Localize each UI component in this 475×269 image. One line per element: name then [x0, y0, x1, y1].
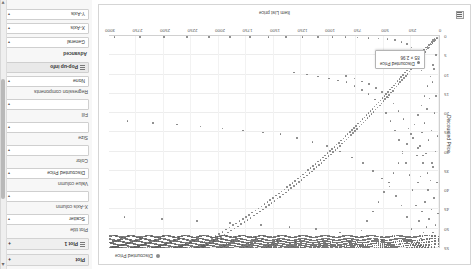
data-point[interactable] [242, 235, 244, 237]
data-point[interactable] [399, 78, 401, 80]
data-point[interactable] [417, 182, 419, 184]
config-panel[interactable]: Plot + Plot 1 + Plot title Scatter ▾ X-A… [0, 0, 92, 269]
data-point[interactable] [387, 97, 389, 99]
size-select[interactable]: ▾ [4, 122, 89, 133]
data-point[interactable] [367, 238, 369, 240]
data-point[interactable] [433, 68, 435, 70]
data-point[interactable] [238, 243, 240, 245]
data-point[interactable] [212, 242, 214, 244]
data-point[interactable] [396, 238, 398, 240]
data-point[interactable] [350, 235, 352, 237]
data-point[interactable] [232, 224, 234, 226]
data-point[interactable] [341, 143, 343, 145]
data-point[interactable] [417, 114, 419, 116]
data-point[interactable] [366, 114, 368, 116]
data-point[interactable] [356, 128, 358, 130]
data-point[interactable] [302, 235, 304, 237]
expand-icon-2[interactable]: + [8, 241, 11, 247]
data-point[interactable] [385, 93, 387, 95]
data-point[interactable] [435, 151, 437, 153]
data-point[interactable] [225, 229, 227, 231]
data-point[interactable] [434, 243, 436, 245]
data-point[interactable] [257, 240, 259, 242]
data-point[interactable] [152, 122, 154, 124]
data-point[interactable] [389, 239, 391, 241]
data-point[interactable] [333, 239, 335, 241]
data-point[interactable] [346, 81, 348, 83]
data-point[interactable] [316, 242, 318, 244]
data-point[interactable] [431, 162, 433, 164]
data-point[interactable] [374, 99, 376, 101]
data-point[interactable] [371, 113, 373, 115]
data-point[interactable] [267, 236, 269, 238]
data-point[interactable] [188, 235, 190, 237]
data-point[interactable] [200, 247, 202, 248]
chevron-down-icon-g[interactable]: ▾ [8, 40, 10, 45]
fill-select[interactable]: ▾ [4, 99, 89, 110]
data-point[interactable] [274, 236, 276, 238]
data-point[interactable] [421, 70, 423, 72]
data-point[interactable] [317, 36, 319, 38]
data-point[interactable] [247, 240, 249, 242]
chevron-down-icon-r[interactable]: ▾ [8, 79, 10, 84]
data-point[interactable] [231, 245, 233, 247]
x-axis-column-select[interactable]: ▾ [4, 191, 89, 202]
data-point[interactable] [351, 129, 353, 131]
data-point[interactable] [366, 235, 368, 237]
data-point[interactable] [291, 237, 293, 239]
data-point[interactable] [318, 164, 320, 166]
data-point[interactable] [247, 219, 249, 221]
data-point[interactable] [275, 195, 277, 197]
data-point[interactable] [238, 235, 240, 237]
data-point[interactable] [317, 247, 319, 248]
data-point[interactable] [403, 240, 405, 242]
data-point[interactable] [426, 226, 428, 228]
data-point[interactable] [144, 236, 146, 238]
data-point[interactable] [221, 247, 223, 248]
data-point[interactable] [192, 243, 194, 245]
data-point[interactable] [364, 117, 366, 119]
data-point[interactable] [387, 236, 389, 238]
data-point[interactable] [237, 226, 239, 228]
data-point[interactable] [244, 221, 246, 223]
data-point[interactable] [319, 239, 321, 241]
data-point[interactable] [398, 238, 400, 240]
data-point[interactable] [258, 245, 260, 247]
data-point[interactable] [438, 243, 440, 245]
data-point[interactable] [370, 246, 372, 248]
data-point[interactable] [181, 246, 183, 248]
value-column-select[interactable]: Discounted Price ▾ [4, 168, 89, 179]
data-point[interactable] [339, 232, 341, 234]
data-point[interactable] [220, 247, 222, 248]
data-point[interactable] [207, 235, 209, 237]
data-point[interactable] [361, 81, 363, 83]
data-point[interactable] [291, 240, 293, 242]
data-point[interactable] [154, 243, 156, 245]
data-point[interactable] [296, 183, 298, 185]
data-point[interactable] [110, 242, 112, 244]
data-point[interactable] [278, 235, 280, 237]
data-point[interactable] [413, 236, 415, 238]
data-point[interactable] [155, 243, 157, 245]
data-point[interactable] [152, 247, 154, 248]
data-point[interactable] [388, 182, 390, 184]
data-point[interactable] [399, 235, 401, 237]
data-point[interactable] [359, 240, 361, 242]
data-point[interactable] [350, 246, 352, 248]
data-point[interactable] [224, 246, 226, 248]
data-point[interactable] [333, 236, 335, 238]
data-point[interactable] [305, 172, 307, 174]
data-point[interactable] [301, 247, 303, 248]
scrollbar-thumb[interactable] [1, 79, 5, 199]
data-point[interactable] [147, 245, 149, 247]
data-point[interactable] [424, 122, 426, 124]
data-point[interactable] [282, 241, 284, 243]
data-point[interactable] [325, 158, 327, 160]
data-point[interactable] [402, 153, 404, 155]
data-point[interactable] [317, 161, 319, 163]
data-point[interactable] [292, 182, 294, 184]
data-point[interactable] [229, 247, 231, 248]
data-point[interactable] [295, 236, 297, 238]
data-point[interactable] [220, 241, 222, 243]
data-point[interactable] [423, 242, 425, 244]
